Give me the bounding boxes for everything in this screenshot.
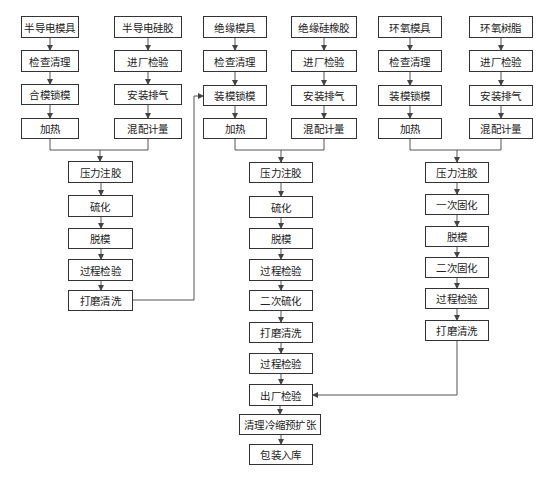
merge-connector-line xyxy=(235,139,324,150)
process-step-box: 清理冷缩预扩张 xyxy=(239,414,321,435)
process-step-box: 包装入库 xyxy=(249,444,313,465)
process-step-box: 混配计量 xyxy=(114,118,182,139)
process-step-box: 检查清理 xyxy=(203,50,267,72)
process-step-box: 脱模 xyxy=(249,228,313,249)
process-flowchart: 半导电模具检查清理合模锁模加热半导电硅胶进厂检验安装排气混配计量压力注胶硫化脱模… xyxy=(0,0,550,483)
process-step-box: 半导电模具 xyxy=(21,16,79,38)
process-step-box: 打磨清洗 xyxy=(68,290,133,311)
process-step-box: 绝缘模具 xyxy=(203,16,267,38)
flow-connector-arrow xyxy=(313,341,457,395)
process-step-box: 硫化 xyxy=(68,195,133,217)
process-step-box: 二次硫化 xyxy=(249,290,313,311)
process-step-box: 脱模 xyxy=(425,226,489,247)
process-step-box: 加热 xyxy=(378,118,442,139)
process-step-box: 脱模 xyxy=(68,228,133,249)
process-step-box: 一次固化 xyxy=(425,194,489,215)
process-step-box: 装模锁模 xyxy=(378,85,442,106)
process-step-box: 安装排气 xyxy=(114,84,182,105)
process-step-box: 绝缘硅橡胶 xyxy=(291,16,357,38)
process-step-box: 装模锁模 xyxy=(203,85,267,106)
process-step-box: 硫化 xyxy=(249,196,313,218)
merge-connector-line xyxy=(50,139,148,150)
process-step-box: 加热 xyxy=(203,118,267,139)
process-step-box: 环氧树脂 xyxy=(469,16,533,38)
process-step-box: 压力注胶 xyxy=(425,162,489,183)
process-step-box: 环氧模具 xyxy=(378,16,442,38)
process-step-box: 压力注胶 xyxy=(68,161,133,183)
process-step-box: 混配计量 xyxy=(291,118,357,139)
process-step-box: 检查清理 xyxy=(21,50,79,72)
process-step-box: 二次固化 xyxy=(425,257,489,278)
process-step-box: 半导电硅胶 xyxy=(114,16,182,38)
process-step-box: 出厂检验 xyxy=(249,384,313,406)
process-step-box: 过程检验 xyxy=(425,288,489,309)
process-step-box: 安装排气 xyxy=(469,85,533,106)
process-step-box: 混配计量 xyxy=(469,118,533,139)
process-step-box: 进厂检验 xyxy=(114,50,182,72)
process-step-box: 过程检验 xyxy=(249,353,313,374)
merge-connector-line xyxy=(410,139,501,150)
process-step-box: 检查清理 xyxy=(378,50,442,72)
process-step-box: 安装排气 xyxy=(291,85,357,106)
process-step-box: 打磨清洗 xyxy=(425,320,489,341)
process-step-box: 过程检验 xyxy=(68,259,133,281)
process-step-box: 进厂检验 xyxy=(469,50,533,72)
process-step-box: 压力注胶 xyxy=(249,162,313,183)
process-step-box: 过程检验 xyxy=(249,259,313,281)
process-step-box: 进厂检验 xyxy=(291,50,357,72)
process-step-box: 合模锁模 xyxy=(21,84,79,105)
process-step-box: 加热 xyxy=(21,118,79,139)
process-step-box: 打磨清洗 xyxy=(249,322,313,343)
